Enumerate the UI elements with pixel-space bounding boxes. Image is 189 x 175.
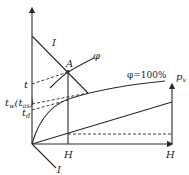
state-point-a — [67, 70, 70, 73]
psychrometric-diagram: I A φ φ=100% pv t tw(tas) td H H I — [0, 0, 189, 175]
rh-curve-label: φ — [93, 50, 100, 61]
dew-point-dashed — [32, 100, 68, 110]
isenthalpic-line-lower — [32, 144, 56, 168]
h-axis-label: H — [165, 149, 175, 160]
point-a-label: A — [65, 58, 73, 69]
saturation-curve — [32, 81, 165, 144]
saturation-curve-label: φ=100% — [127, 70, 167, 80]
tw-tas-label: tw(tas) — [5, 97, 34, 110]
isenthalpic-label-bottom: I — [56, 164, 62, 175]
t-label: t — [24, 79, 29, 90]
wet-bulb-dashed — [32, 93, 88, 104]
isenthalpic-line — [32, 36, 88, 93]
pv-axis-label: pv — [176, 71, 186, 84]
isenthalpic-label-top: I — [51, 37, 57, 48]
dry-bulb-dashed — [32, 72, 68, 84]
h-tick-label: H — [63, 149, 73, 160]
